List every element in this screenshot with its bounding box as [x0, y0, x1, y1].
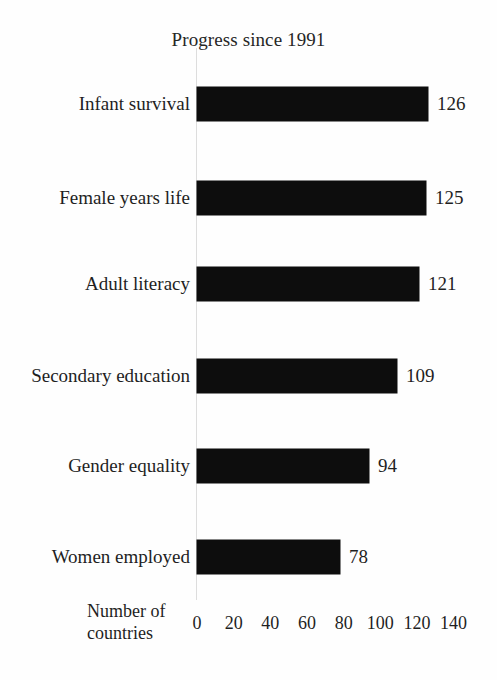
bar-category-label: Adult literacy	[85, 267, 190, 301]
x-tick-label: 60	[298, 610, 316, 636]
x-tick-label: 20	[225, 610, 243, 636]
x-tick-label: 120	[403, 610, 430, 636]
bar-value-label: 125	[435, 181, 464, 215]
bar-row: Female years life125	[0, 181, 497, 215]
bar	[197, 267, 419, 301]
bar-value-label: 109	[406, 359, 435, 393]
bar	[197, 87, 428, 121]
bar-row: Secondary education109	[0, 359, 497, 393]
x-axis-zero-line	[196, 48, 197, 600]
bar	[197, 359, 397, 393]
x-tick-label: 0	[193, 610, 202, 636]
x-tick-label: 100	[367, 610, 394, 636]
bar-value-label: 78	[349, 540, 368, 574]
bar-row: Women employed78	[0, 540, 497, 574]
bar	[197, 449, 369, 483]
bar-category-label: Female years life	[59, 181, 190, 215]
x-tick-label: 80	[335, 610, 353, 636]
bar-category-label: Infant survival	[79, 87, 190, 121]
x-tick-label: 40	[261, 610, 279, 636]
bar-row: Adult literacy121	[0, 267, 497, 301]
bar-value-label: 121	[428, 267, 457, 301]
x-tick-label: 140	[440, 610, 467, 636]
x-axis-tick-labels: 020406080100120140	[0, 610, 497, 636]
bar-category-label: Women employed	[52, 540, 190, 574]
bar-category-label: Gender equality	[68, 449, 190, 483]
bar-row: Gender equality94	[0, 449, 497, 483]
bar-row: Infant survival126	[0, 87, 497, 121]
bar-category-label: Secondary education	[31, 359, 190, 393]
bar	[197, 181, 426, 215]
bar-value-label: 94	[378, 449, 397, 483]
bar-value-label: 126	[437, 87, 466, 121]
plot-area: Infant survival126Female years life125Ad…	[0, 0, 497, 680]
bar	[197, 540, 340, 574]
chart-page: Progress since 1991 Infant survival126Fe…	[0, 0, 497, 680]
